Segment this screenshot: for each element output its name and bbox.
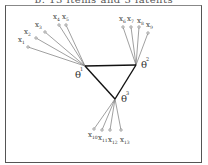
item-subscript: 12: [112, 140, 118, 145]
item-subscript: 9: [150, 25, 153, 30]
loading-edge: [110, 99, 115, 130]
loading-edge: [131, 27, 136, 65]
item-node: [35, 37, 37, 39]
loading-edge: [66, 25, 85, 66]
item-subscript: 8: [141, 21, 144, 26]
loading-edge: [59, 25, 85, 66]
item-node: [147, 32, 149, 34]
item-label: x9: [146, 21, 153, 30]
item-subscript: 2: [28, 32, 31, 37]
item-subscript: 3: [39, 25, 42, 30]
latent-correlation-edge: [85, 66, 115, 99]
item-node: [120, 129, 122, 131]
item-label: x5: [62, 13, 69, 22]
item-node: [93, 128, 95, 130]
item-subscript: 5: [66, 17, 69, 22]
item-label: x7: [127, 15, 134, 24]
item-label: x8: [137, 17, 144, 26]
item-subscript: 13: [124, 140, 130, 145]
item-node: [122, 26, 124, 28]
item-label: x12: [108, 136, 118, 145]
latent-item-diagram: x1x2x3x4x5x6x7x8x9x10x11x12x13θ1θ2θ3: [0, 0, 208, 165]
latent-superscript: 3: [126, 90, 129, 96]
item-label: x2: [24, 28, 31, 37]
item-label: x13: [120, 136, 130, 145]
item-node: [58, 24, 60, 26]
latent-correlation-edge: [85, 65, 136, 66]
item-label: x11: [98, 134, 108, 143]
item-subscript: 4: [57, 17, 60, 22]
loading-edge: [45, 32, 85, 66]
item-label: x10: [88, 131, 98, 140]
latent-superscript: 1: [80, 66, 83, 72]
item-subscript: 11: [102, 138, 108, 143]
item-node: [27, 46, 29, 48]
item-subscript: 7: [131, 19, 134, 24]
item-node: [138, 26, 140, 28]
item-node: [109, 129, 111, 131]
item-label: x1: [18, 36, 25, 45]
item-subscript: 6: [123, 19, 126, 24]
loading-edge: [136, 27, 139, 65]
item-subscript: 1: [22, 40, 25, 45]
item-label: x6: [119, 15, 126, 24]
item-node: [65, 24, 67, 26]
item-node: [101, 129, 103, 131]
latent-superscript: 2: [146, 56, 149, 62]
item-label: x4: [53, 13, 60, 22]
item-node: [44, 31, 46, 33]
loading-edge: [123, 27, 136, 65]
item-label: x3: [35, 21, 42, 30]
item-node: [130, 26, 132, 28]
item-subscript: 10: [92, 135, 98, 140]
